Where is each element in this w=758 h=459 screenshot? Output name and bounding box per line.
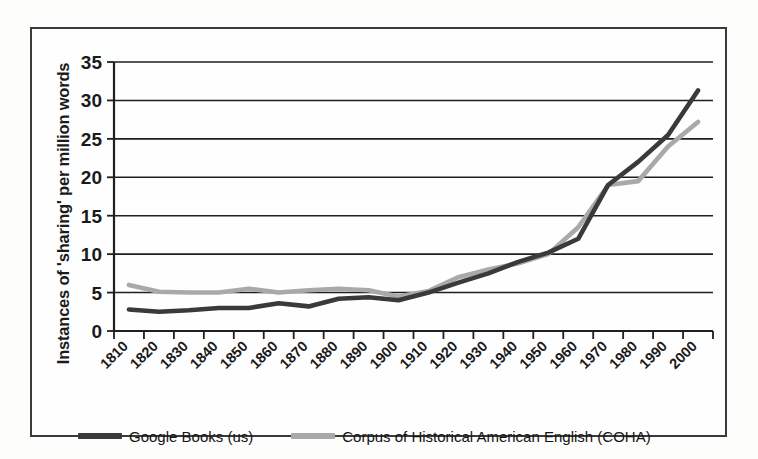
y-axis-ticks: 05101520253035 (81, 52, 114, 342)
y-tick-label: 15 (81, 206, 103, 227)
x-tick-label: 1990 (636, 338, 670, 372)
data-series (129, 90, 698, 311)
x-axis-ticks: 1810182018301840185018601870188018901900… (97, 331, 713, 372)
x-tick-label: 1980 (606, 338, 640, 372)
y-tick-label: 0 (91, 321, 102, 342)
line-swatch-icon (291, 433, 335, 439)
chart-page: Instances of 'sharing' per million words… (0, 0, 758, 459)
x-tick-label: 1940 (486, 338, 520, 372)
x-tick-label: 1810 (97, 338, 131, 372)
x-tick-label: 1840 (187, 338, 221, 372)
y-tick-label: 20 (81, 167, 102, 188)
legend: Google Books (us) Corpus of Historical A… (78, 423, 718, 449)
gridlines (114, 62, 713, 293)
legend-spacer (253, 436, 291, 437)
x-tick-label: 1850 (217, 338, 251, 372)
x-tick-label: 1880 (307, 338, 341, 372)
x-tick-label: 1900 (367, 338, 401, 372)
x-tick-label: 1920 (426, 338, 460, 372)
x-tick-label: 1820 (127, 338, 161, 372)
x-tick-label: 1960 (546, 338, 580, 372)
legend-label: Google Books (us) (129, 428, 253, 445)
x-tick-label: 1890 (337, 338, 371, 372)
line-swatch-icon (78, 433, 122, 439)
line-chart: 05101520253035 1810182018301840185018601… (32, 29, 725, 435)
series-line-google-books (129, 90, 698, 311)
legend-label: Corpus of Historical American English (C… (342, 428, 650, 445)
y-tick-label: 10 (81, 244, 102, 265)
y-tick-label: 25 (81, 129, 103, 150)
x-tick-label: 1950 (516, 338, 550, 372)
y-tick-label: 35 (81, 52, 103, 73)
y-tick-label: 30 (81, 90, 102, 111)
x-tick-label: 1870 (277, 338, 311, 372)
x-tick-label: 1970 (576, 338, 610, 372)
x-tick-label: 1910 (396, 338, 430, 372)
figure-frame: Instances of 'sharing' per million words… (30, 27, 727, 437)
y-tick-label: 5 (91, 283, 102, 304)
x-tick-label: 1860 (247, 338, 281, 372)
x-tick-label: 1830 (157, 338, 191, 372)
series-line-coha (129, 122, 698, 296)
legend-entry-coha[interactable]: Corpus of Historical American English (C… (291, 428, 650, 445)
legend-entry-google-books[interactable]: Google Books (us) (78, 428, 253, 445)
x-tick-label: 2000 (666, 338, 700, 372)
x-tick-label: 1930 (456, 338, 490, 372)
